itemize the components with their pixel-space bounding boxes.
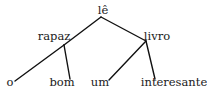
node-um: um [91, 75, 109, 89]
node-le: lê [98, 3, 109, 17]
node-bom: bom [49, 75, 74, 89]
node-rapaz: rapaz [38, 29, 71, 43]
dependency-tree: lê rapaz livro o bom um interesante [0, 0, 207, 95]
node-o: o [7, 75, 14, 89]
edge-livro-interesante [146, 41, 155, 79]
node-livro: livro [144, 29, 170, 43]
edge-rapaz-bom [64, 45, 70, 79]
node-interesante: interesante [141, 75, 207, 89]
nodes: lê rapaz livro o bom um interesante [7, 3, 207, 89]
edges [15, 17, 155, 81]
edge-le-livro [101, 17, 146, 41]
